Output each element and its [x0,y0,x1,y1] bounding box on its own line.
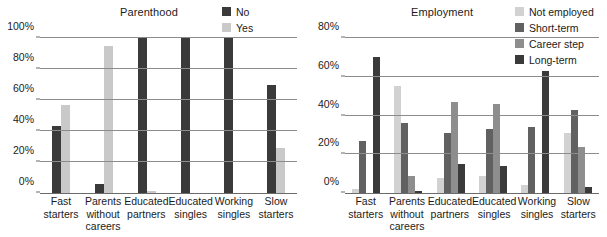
bar-group [430,38,472,193]
y-axis-tick-mark [36,68,40,69]
y-axis-tick-mark [341,114,345,115]
legend-parenthood: NoYes [222,4,253,36]
x-axis-label: Workingsingles [516,195,557,233]
bar [181,38,190,193]
gridline [345,115,599,116]
bar-group [387,38,429,193]
y-axis-tick-label: 40% [318,98,345,110]
bar [61,105,70,193]
legend-item-not-employed: Not employed [515,4,594,19]
bar [528,127,535,193]
y-axis-tick-label: 40% [13,113,40,125]
bar [415,191,422,193]
bar [52,126,61,193]
y-axis-tick-mark [36,37,40,38]
bar [373,57,380,193]
y-axis-tick-label: 80% [318,20,345,32]
bar [267,85,276,194]
gridline [345,76,599,77]
plot-area-parenthood: 0%20%40%60%80%100% [40,38,297,194]
bar-group [557,38,599,193]
bar [500,166,507,193]
bar-group [345,38,387,193]
bar [451,102,458,193]
chart-panel-employment: Employment Not employedShort-termCareer … [303,0,607,237]
page-title-parenthood: Parenthood [120,6,178,18]
bar [521,185,528,193]
bar [437,178,444,194]
bar-group [472,38,514,193]
y-axis-tick-mark [36,161,40,162]
bar-groups-parenthood [40,38,297,193]
bar [95,184,104,193]
x-axis-label: Faststarters [345,195,386,233]
y-axis-tick-label: 20% [13,144,40,156]
x-axis-label: Parentswithoutcareers [386,195,427,233]
legend-swatch-icon [222,7,231,16]
legend-label: Short-term [529,22,579,34]
dual-bar-chart-figure: Parenthood NoYes 0%20%40%60%80%100% Fast… [0,0,607,237]
bar [486,129,493,193]
gridline [345,37,599,38]
y-axis-tick-label: 20% [318,136,345,148]
bar [444,133,451,193]
y-axis-tick-mark [36,99,40,100]
x-axis-label: Faststarters [40,195,82,233]
legend-swatch-icon [515,23,524,32]
bar-group [83,38,126,193]
y-axis-tick-label: 60% [318,59,345,71]
bar [138,38,147,193]
bar [359,141,366,193]
y-axis-tick-mark [341,37,345,38]
bar-groups-employment [345,38,599,193]
bar [479,176,486,193]
bar [493,104,500,193]
bar [401,123,408,193]
y-axis-tick-mark [36,130,40,131]
bar-group [40,38,83,193]
bar [408,176,415,193]
x-axis-labels-employment: FaststartersParentswithoutcareersEducate… [345,195,599,233]
y-axis-tick-mark [36,192,40,193]
bar [147,191,156,193]
x-axis-label: Parentswithoutcareers [82,195,124,233]
y-axis-tick-label: 0% [19,175,40,187]
bar [352,189,359,193]
legend-swatch-icon [222,23,231,32]
x-axis-label: Educatedsingles [472,195,516,233]
plot-area-employment: 0%20%40%60%80% [345,38,599,194]
bar-group [168,38,211,193]
gridline [40,99,297,100]
bar [564,133,571,193]
bar [585,187,592,193]
bar-group [126,38,169,193]
gridline [40,161,297,162]
gridline [345,153,599,154]
legend-item-no: No [222,4,253,19]
legend-item-yes: Yes [222,20,253,35]
x-axis-label: Workingsingles [213,195,255,233]
legend-label: Not employed [529,6,594,18]
y-axis-tick-label: 60% [13,82,40,94]
x-axis-labels-parenthood: FaststartersParentswithoutcareersEducate… [40,195,297,233]
y-axis-tick-label: 80% [13,51,40,63]
legend-label: No [236,6,249,18]
bar [276,148,285,193]
bar-group [211,38,254,193]
gridline [40,37,297,38]
bar [224,38,233,193]
x-axis-label: Educatedpartners [428,195,472,233]
chart-panel-parenthood: Parenthood NoYes 0%20%40%60%80%100% Fast… [0,0,303,237]
x-axis-label: Slowstarters [255,195,297,233]
bar [542,71,549,193]
bar [394,86,401,193]
bar [571,110,578,193]
x-axis-label: Slowstarters [558,195,599,233]
gridline [40,130,297,131]
x-axis-label: Educatedsingles [169,195,213,233]
bar [458,164,465,193]
legend-label: Yes [236,22,253,34]
x-axis-label: Educatedpartners [124,195,168,233]
bar-group [514,38,556,193]
legend-item-short-term: Short-term [515,20,594,35]
